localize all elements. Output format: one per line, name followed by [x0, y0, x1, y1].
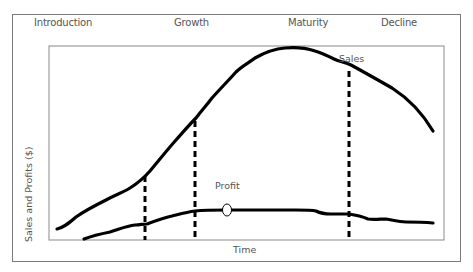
- profit-curve-label: Profit: [215, 180, 240, 191]
- sales-curve-label: Sales: [339, 53, 364, 64]
- profit-marker-icon: [223, 204, 232, 216]
- plot-area: [0, 0, 473, 272]
- sales-curve: [57, 48, 433, 229]
- x-axis-label: Time: [233, 244, 256, 255]
- profit-curve: [84, 210, 433, 239]
- y-axis-label: Sales and Profits ($): [23, 147, 34, 242]
